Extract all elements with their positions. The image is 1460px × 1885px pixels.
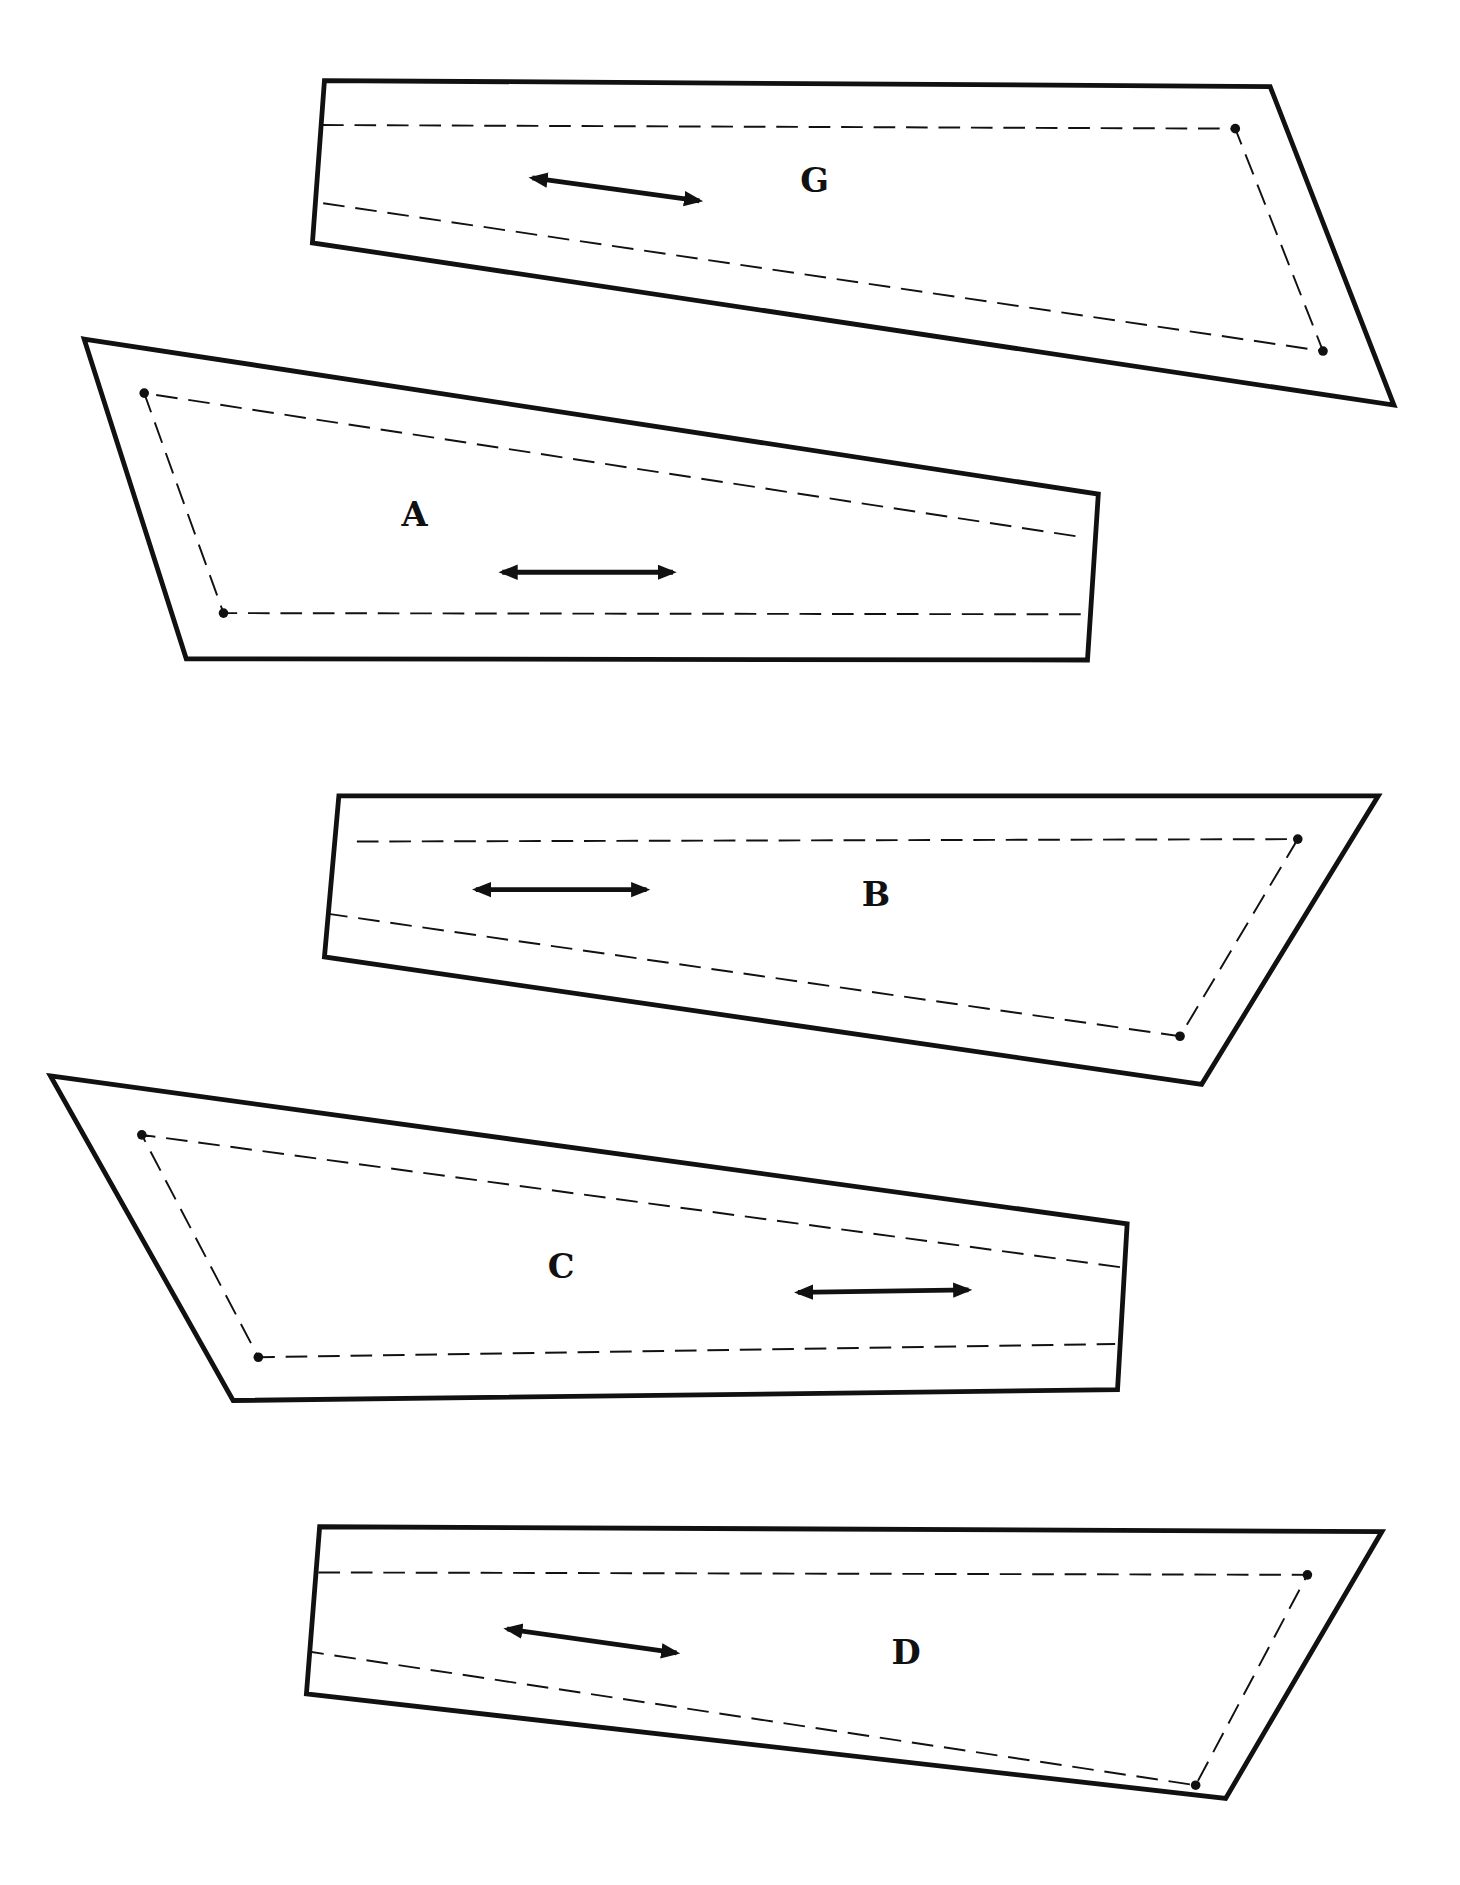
seam-line — [142, 1135, 1120, 1357]
seam-line — [144, 393, 1087, 614]
matching-dot — [137, 1130, 147, 1140]
matching-dot — [1191, 1780, 1201, 1790]
pattern-piece-c: C — [50, 1076, 1127, 1401]
matching-dot — [1318, 346, 1328, 356]
piece-label: C — [548, 1246, 575, 1286]
piece-label: D — [891, 1632, 920, 1672]
piece-label: A — [401, 494, 429, 534]
seam-line — [327, 839, 1298, 1036]
grainline-arrow-icon — [798, 1290, 969, 1292]
matching-dot — [139, 388, 149, 398]
grainline-arrow-icon — [532, 178, 699, 201]
matching-dot — [1230, 124, 1240, 134]
pattern-piece-b: B — [324, 796, 1378, 1085]
pattern-piece-d: D — [306, 1527, 1381, 1799]
matching-dot — [219, 608, 229, 618]
pattern-piece-g: G — [312, 81, 1393, 406]
cutting-line — [84, 339, 1098, 660]
pattern-piece-a: A — [84, 339, 1098, 660]
matching-dot — [1303, 1570, 1313, 1580]
piece-label: B — [862, 874, 890, 914]
matching-dot — [1175, 1031, 1185, 1041]
matching-dot — [1293, 834, 1303, 844]
grainline-arrow-icon — [507, 1629, 676, 1653]
matching-dot — [254, 1352, 264, 1362]
piece-label: G — [800, 160, 829, 200]
pattern-pieces-diagram: GABCD — [0, 0, 1460, 1885]
cutting-line — [306, 1527, 1381, 1799]
